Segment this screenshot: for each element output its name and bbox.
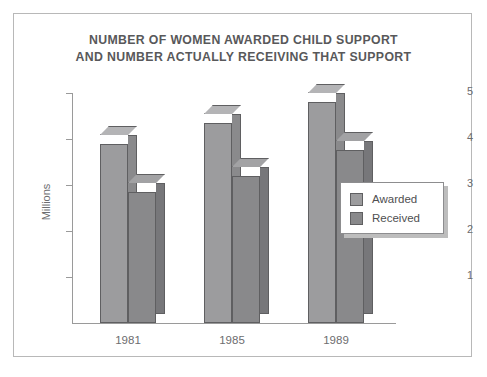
x-tick-label-1985: 1985: [197, 334, 267, 346]
bar-1981-received: [128, 183, 156, 323]
y-tick-3: [66, 185, 73, 186]
bar-1985-received: [232, 167, 260, 323]
bar-front-face: [308, 102, 336, 323]
y-axis-line: [72, 93, 73, 324]
y-tick-4: [66, 139, 73, 140]
legend-swatch-received: [350, 212, 363, 225]
chart-legend: Awarded Received: [340, 182, 444, 234]
legend-item-received: Received: [350, 210, 420, 226]
y-tick-label-5: 5: [429, 85, 473, 97]
bar-side-face: [156, 183, 165, 314]
legend-label-received: Received: [372, 212, 420, 224]
chart-frame: NUMBER OF WOMEN AWARDED CHILD SUPPORT AN…: [13, 13, 472, 357]
bar-front-face: [232, 176, 260, 323]
y-tick-label-1: 1: [429, 269, 473, 281]
y-axis-title: Millions: [40, 162, 52, 242]
bar-1985-awarded: [204, 114, 232, 323]
bar-side-face: [260, 167, 269, 314]
legend-item-awarded: Awarded: [350, 191, 417, 207]
bar-front-face: [204, 123, 232, 323]
x-axis-line: [72, 323, 396, 324]
bar-front-face: [128, 192, 156, 323]
x-tick-label-1981: 1981: [93, 334, 163, 346]
bar-1981-awarded: [100, 135, 128, 323]
bar-front-face: [100, 144, 128, 323]
y-tick-1: [66, 277, 73, 278]
legend-swatch-awarded: [350, 193, 363, 206]
plot-area: Millions 1 2 3 4 5: [14, 14, 473, 358]
legend-label-awarded: Awarded: [372, 193, 417, 205]
chart-figure: NUMBER OF WOMEN AWARDED CHILD SUPPORT AN…: [0, 0, 487, 377]
y-tick-label-4: 4: [429, 131, 473, 143]
y-tick-5: [66, 93, 73, 94]
x-tick-label-1989: 1989: [301, 334, 371, 346]
bar-1989-awarded: [308, 93, 336, 323]
y-tick-2: [66, 231, 73, 232]
